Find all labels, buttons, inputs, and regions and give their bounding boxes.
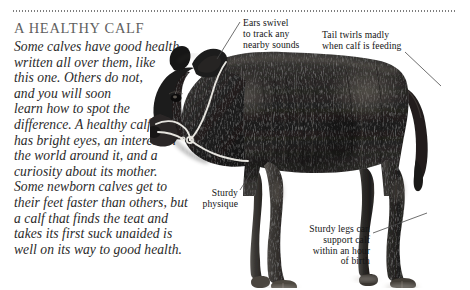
callout-physique: Sturdy physique	[196, 188, 238, 210]
calf-front-leg-near	[264, 162, 297, 288]
callout-legs: Sturdy legs can support calf within an h…	[296, 224, 370, 267]
callout-line: physique	[196, 199, 238, 210]
dotted-divider	[13, 10, 456, 12]
callout-ears: Ears swivel to track any nearby sounds	[243, 18, 299, 50]
calf-ear-far	[170, 46, 191, 71]
callout-line: support calf	[296, 235, 370, 246]
callout-line: nearby sounds	[243, 40, 299, 51]
page-title: A HEALTHY CALF	[14, 20, 219, 37]
callout-line: to track any	[243, 29, 299, 40]
callout-line: when calf is feeding	[322, 41, 402, 52]
calf-hind-leg-near	[382, 160, 416, 288]
page-root: A HEALTHY CALF Some calves have good hea…	[0, 0, 470, 290]
callout-tail: Tail twirls madly when calf is feeding	[322, 30, 402, 52]
callout-line: of birth	[296, 256, 370, 267]
